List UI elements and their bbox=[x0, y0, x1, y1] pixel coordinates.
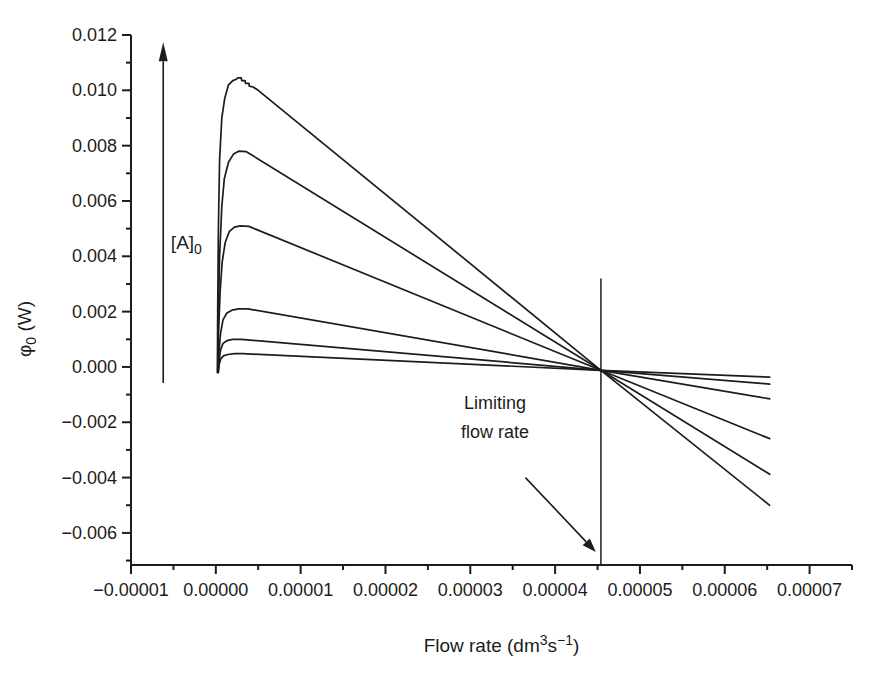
limiting-label-line2: flow rate bbox=[461, 422, 529, 442]
y-tick-label: −0.002 bbox=[61, 412, 117, 432]
y-tick-label: −0.006 bbox=[61, 523, 117, 543]
x-tick-label: 0.00001 bbox=[268, 580, 333, 600]
x-tick-label: 0.00004 bbox=[523, 580, 588, 600]
y-tick-label: 0.012 bbox=[72, 25, 117, 45]
limiting-label-line1: Limiting bbox=[464, 393, 526, 413]
limiting-pointer-arrow-shaft bbox=[525, 478, 586, 542]
a0-concentration-label: [A]0 bbox=[171, 232, 202, 257]
y-tick-label: 0.002 bbox=[72, 302, 117, 322]
x-tick-label: 0.00006 bbox=[692, 580, 757, 600]
flow-rate-heat-chart: 0.0120.0100.0080.0060.0040.0020.000−0.00… bbox=[0, 0, 878, 681]
figure-page: 0.0120.0100.0080.0060.0040.0020.000−0.00… bbox=[0, 0, 878, 681]
x-tick-label: 0.00000 bbox=[183, 580, 248, 600]
series-curve-6 bbox=[218, 354, 769, 378]
y-tick-label: 0.000 bbox=[72, 357, 117, 377]
x-tick-label: −0.00001 bbox=[93, 580, 169, 600]
y-axis-title: φ0 (W) bbox=[14, 301, 39, 357]
x-tick-label: 0.00005 bbox=[607, 580, 672, 600]
y-tick-label: 0.006 bbox=[72, 191, 117, 211]
y-tick-label: 0.010 bbox=[72, 80, 117, 100]
series-curve-5 bbox=[218, 339, 770, 384]
x-axis-title: Flow rate (dm3s−1) bbox=[424, 632, 580, 656]
x-tick-label: 0.00003 bbox=[438, 580, 503, 600]
x-tick-label: 0.00002 bbox=[353, 580, 418, 600]
y-tick-label: 0.004 bbox=[72, 246, 117, 266]
x-tick-label: 0.00007 bbox=[777, 580, 842, 600]
series-curve-4 bbox=[218, 309, 770, 399]
y-tick-label: −0.004 bbox=[61, 468, 117, 488]
y-tick-label: 0.008 bbox=[72, 136, 117, 156]
a0-concentration-arrow-head bbox=[159, 42, 168, 61]
